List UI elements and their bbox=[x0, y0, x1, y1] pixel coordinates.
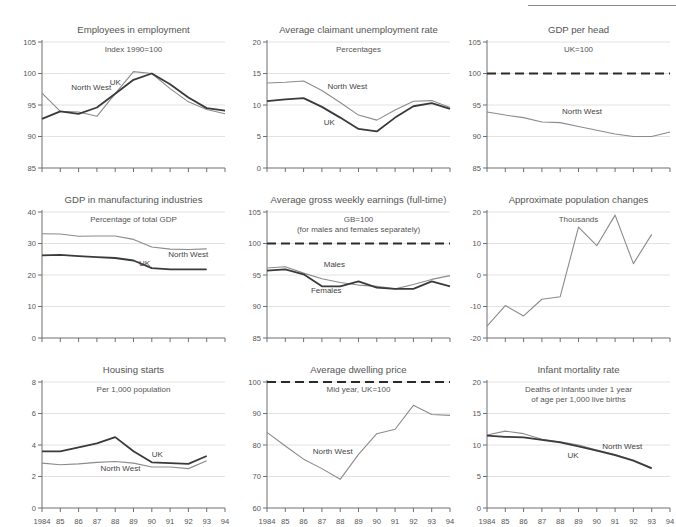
series-annotation: North West bbox=[313, 447, 354, 456]
chart-panel-7: Average dwelling priceMid year, UK=10060… bbox=[233, 362, 458, 527]
y-tick-label: 80 bbox=[253, 441, 261, 450]
x-tick-label: 93 bbox=[202, 517, 210, 526]
y-tick-label: 5 bbox=[257, 132, 261, 141]
y-tick-label: 0 bbox=[32, 504, 36, 513]
chart-panel-1: Average claimant unemployment ratePercen… bbox=[233, 22, 458, 198]
panel-subtitle: Percentages bbox=[336, 45, 381, 54]
y-tick-label: 60 bbox=[253, 504, 261, 513]
y-tick-label: 95 bbox=[473, 101, 481, 110]
y-tick-label: 8 bbox=[32, 378, 36, 387]
x-tick-label: 1984 bbox=[34, 517, 51, 526]
y-tick-label: 4 bbox=[32, 441, 36, 450]
y-tick-label: 90 bbox=[28, 132, 36, 141]
panel-subtitle: Thousands bbox=[559, 215, 599, 224]
x-tick-label: 89 bbox=[574, 517, 582, 526]
panel-title: Approximate population changes bbox=[509, 194, 649, 205]
y-tick-label: 10 bbox=[253, 101, 261, 110]
y-tick-label: 10 bbox=[28, 302, 36, 311]
series-line-uk bbox=[42, 437, 207, 464]
y-tick-label: 70 bbox=[253, 472, 261, 481]
y-tick-label: 0 bbox=[477, 504, 481, 513]
panel-subtitle: Mid year, UK=100 bbox=[327, 385, 391, 394]
x-tick-label: 91 bbox=[391, 517, 399, 526]
chart-panel-8: Infant mortality rateDeaths of infants u… bbox=[453, 362, 676, 527]
x-tick-label: 94 bbox=[666, 517, 674, 526]
y-tick-label: 30 bbox=[28, 239, 36, 248]
panel-subtitle: UK=100 bbox=[564, 45, 594, 54]
y-tick-label: 15 bbox=[253, 69, 261, 78]
chart-panel-3: GDP in manufacturing industriesPercentag… bbox=[8, 192, 233, 368]
x-tick-label: 87 bbox=[318, 517, 326, 526]
y-tick-label: 5 bbox=[477, 472, 481, 481]
y-tick-label: 105 bbox=[23, 38, 36, 47]
series-line-uk bbox=[42, 74, 225, 119]
y-tick-label: 85 bbox=[473, 164, 481, 173]
panel-subtitle-2: of age per 1,000 live births bbox=[531, 395, 625, 404]
series-line-north-west bbox=[487, 215, 652, 326]
series-line-north-west bbox=[267, 405, 450, 479]
panel-title: Average dwelling price bbox=[310, 364, 406, 375]
x-tick-label: 87 bbox=[93, 517, 101, 526]
series-annotation: UK bbox=[324, 118, 336, 127]
panel-title: GDP per head bbox=[548, 24, 609, 35]
y-tick-label: 100 bbox=[248, 239, 261, 248]
x-tick-label: 88 bbox=[336, 517, 344, 526]
x-tick-label: 87 bbox=[538, 517, 546, 526]
series-annotation: North West bbox=[327, 82, 368, 91]
series-annotation: Females bbox=[311, 286, 342, 295]
y-tick-label: 90 bbox=[253, 302, 261, 311]
y-tick-label: 105 bbox=[248, 208, 261, 217]
y-tick-label: 0 bbox=[32, 334, 36, 343]
x-tick-label: 86 bbox=[74, 517, 82, 526]
x-tick-label: 92 bbox=[629, 517, 637, 526]
chart-panel-5: Approximate population changesThousands-… bbox=[453, 192, 676, 368]
y-tick-label: 10 bbox=[473, 239, 481, 248]
x-tick-label: 86 bbox=[299, 517, 307, 526]
y-tick-label: 10 bbox=[473, 441, 481, 450]
y-tick-label: 20 bbox=[473, 378, 481, 387]
panel-subtitle: Per 1,000 population bbox=[97, 385, 171, 394]
y-tick-label: 20 bbox=[28, 271, 36, 280]
panel-title: GDP in manufacturing industries bbox=[65, 194, 203, 205]
y-tick-label: 100 bbox=[468, 69, 481, 78]
x-tick-label: 90 bbox=[373, 517, 381, 526]
y-tick-label: 90 bbox=[253, 409, 261, 418]
series-annotation: North West bbox=[101, 464, 142, 473]
chart-panel-2: GDP per headUK=100859095100105North West bbox=[453, 22, 676, 198]
x-tick-label: 92 bbox=[184, 517, 192, 526]
x-tick-label: 93 bbox=[647, 517, 655, 526]
series-annotation: UK bbox=[110, 78, 122, 87]
x-tick-label: 89 bbox=[354, 517, 362, 526]
panel-title: Average claimant unemployment rate bbox=[279, 24, 438, 35]
panel-title: Housing starts bbox=[103, 364, 165, 375]
panel-subtitle: GB=100 bbox=[344, 215, 374, 224]
y-tick-label: 20 bbox=[473, 208, 481, 217]
figure-page: Employees in employmentIndex 1990=100859… bbox=[0, 0, 676, 527]
y-tick-label: 15 bbox=[473, 409, 481, 418]
panel-title: Infant mortality rate bbox=[537, 364, 619, 375]
series-line-north-west bbox=[42, 72, 225, 117]
series-annotation: UK bbox=[568, 451, 580, 460]
series-annotation: Males bbox=[324, 260, 345, 269]
panel-subtitle-2: (for males and females separately) bbox=[297, 225, 421, 234]
panel-subtitle: Percentage of total GDP bbox=[90, 215, 177, 224]
panel-title: Average gross weekly earnings (full-time… bbox=[271, 194, 447, 205]
x-tick-label: 90 bbox=[593, 517, 601, 526]
series-line-north-west bbox=[42, 234, 207, 250]
y-tick-label: 2 bbox=[32, 472, 36, 481]
y-tick-label: 0 bbox=[257, 164, 261, 173]
series-annotation: North West bbox=[602, 442, 643, 451]
x-tick-label: 85 bbox=[56, 517, 64, 526]
y-tick-label: 95 bbox=[28, 101, 36, 110]
panel-subtitle: Index 1990=100 bbox=[105, 45, 163, 54]
y-tick-label: 100 bbox=[248, 378, 261, 387]
y-tick-label: 85 bbox=[28, 164, 36, 173]
series-annotation: UK bbox=[152, 450, 164, 459]
chart-panel-6: Housing startsPer 1,000 population024681… bbox=[8, 362, 233, 527]
x-tick-label: 88 bbox=[556, 517, 564, 526]
chart-grid: Employees in employmentIndex 1990=100859… bbox=[0, 0, 676, 527]
panel-title: Employees in employment bbox=[77, 24, 190, 35]
x-tick-label: 94 bbox=[221, 517, 229, 526]
y-tick-label: 105 bbox=[468, 38, 481, 47]
x-tick-label: 85 bbox=[281, 517, 289, 526]
